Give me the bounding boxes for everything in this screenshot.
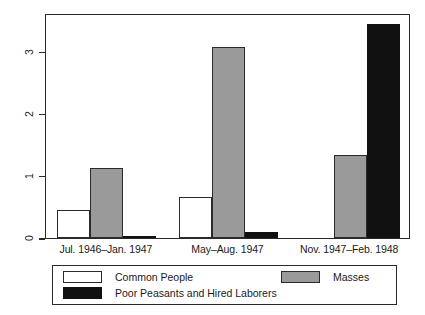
bar <box>367 24 400 238</box>
legend-swatch-masses <box>281 271 320 283</box>
bar-chart-figure: Mentions per Page 0123 Jul. 1946–Jan. 19… <box>0 0 425 315</box>
legend-swatch-common-people <box>63 271 102 283</box>
x-axis-category-label: Nov. 1947–Feb. 1948 <box>279 243 419 255</box>
bar <box>90 168 123 238</box>
legend-label-masses: Masses <box>333 271 369 283</box>
bar <box>212 47 245 238</box>
legend-item-masses[interactable]: Masses <box>281 271 369 283</box>
x-axis-category-label: Jul. 1946–Jan. 1947 <box>36 243 176 255</box>
bar <box>123 236 156 238</box>
legend-label-common-people: Common People <box>115 271 193 283</box>
bar <box>179 197 212 238</box>
y-axis-tick-label: 2 <box>23 107 35 121</box>
legend-swatch-poor-peasants-and-hired-laborers <box>63 287 102 299</box>
bar <box>245 232 278 238</box>
legend-item-poor-peasants-and-hired-laborers[interactable]: Poor Peasants and Hired Laborers <box>63 287 277 299</box>
bars-layer <box>46 15 409 238</box>
chart-legend: Common People Masses Poor Peasants and H… <box>52 265 397 305</box>
legend-label-poor-peasants-and-hired-laborers: Poor Peasants and Hired Laborers <box>115 287 277 299</box>
bar <box>334 155 367 238</box>
y-axis-tick-label: 1 <box>23 169 35 183</box>
plot-area <box>45 14 410 239</box>
y-axis-tick-label: 3 <box>23 45 35 59</box>
legend-item-common-people[interactable]: Common People <box>63 271 193 283</box>
y-axis-tick-label: 0 <box>23 231 35 245</box>
x-axis-category-label: May–Aug. 1947 <box>158 243 298 255</box>
bar <box>57 210 90 238</box>
